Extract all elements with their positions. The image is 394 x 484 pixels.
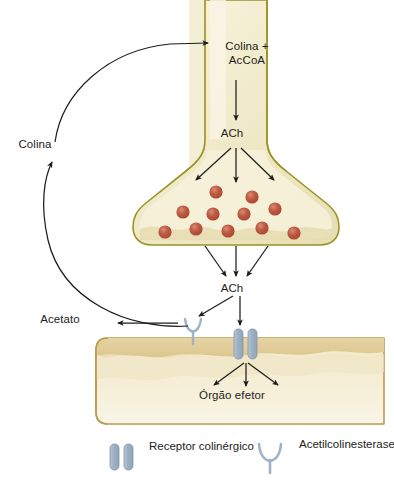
diagram-canvas bbox=[0, 0, 394, 484]
legend: Receptor colinérgico Acetilcolinesterase bbox=[0, 438, 394, 478]
synaptic-vesicle bbox=[158, 225, 171, 238]
label-colina-accoa: Colina + AcCoA bbox=[225, 39, 268, 67]
synaptic-vesicle bbox=[176, 205, 189, 218]
synaptic-vesicle bbox=[206, 207, 219, 220]
legend-label-receptor: Receptor colinérgico bbox=[149, 440, 254, 452]
axon-shaft-highlight bbox=[210, 0, 226, 139]
synaptic-vesicle bbox=[245, 190, 258, 203]
axon-right-edge bbox=[267, 0, 286, 171]
legend-item-receptor: Receptor colinérgico bbox=[106, 440, 254, 452]
label-colina-accoa-line1: Colina + bbox=[225, 39, 268, 53]
synaptic-vesicle bbox=[209, 185, 222, 198]
arrow-ach-to-ache bbox=[199, 296, 233, 316]
arrow-release-right bbox=[247, 246, 268, 276]
label-acetato: Acetato bbox=[40, 313, 80, 325]
label-ach-terminal: ACh bbox=[221, 127, 244, 139]
presynaptic-neuron bbox=[133, 0, 339, 245]
synaptic-vesicle bbox=[221, 224, 234, 237]
synaptic-vesicle bbox=[255, 221, 268, 234]
arrow-release-left bbox=[205, 246, 226, 276]
synaptic-vesicle bbox=[189, 222, 202, 235]
label-colina: Colina bbox=[18, 138, 51, 150]
axon-shaft-shading bbox=[189, 0, 206, 168]
receptor-bar-left bbox=[234, 329, 243, 359]
label-ach-cleft: ACh bbox=[221, 282, 244, 294]
legend-label-acetylcholinesterase: Acetilcolinesterase bbox=[299, 438, 394, 450]
arrow-choline-into-terminal bbox=[55, 43, 208, 142]
cholinergic-synapse-figure: Colina + AcCoA ACh ACh Colina Acetato Ór… bbox=[0, 0, 394, 484]
label-colina-accoa-line2: AcCoA bbox=[225, 53, 268, 67]
legend-item-acetylcholinesterase: Acetilcolinesterase bbox=[256, 438, 394, 450]
synaptic-vesicle bbox=[237, 207, 250, 220]
receptor-bar-right bbox=[248, 329, 257, 359]
synaptic-vesicle bbox=[268, 202, 281, 215]
synaptic-vesicle bbox=[287, 226, 300, 239]
label-orgao-efetor: Órgão efetor bbox=[199, 389, 265, 401]
